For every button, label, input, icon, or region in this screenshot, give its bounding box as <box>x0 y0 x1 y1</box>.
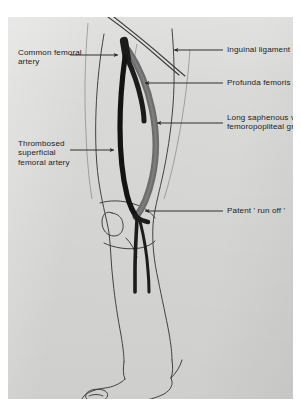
label-common-femoral-artery: Common femoral artery <box>18 48 82 67</box>
scan-plate: Common femoral artery Thrombosed superfi… <box>8 17 293 399</box>
thigh-contour-lines <box>85 23 190 199</box>
label-profunda-femoris-artery: Profunda femoris artery <box>227 78 293 87</box>
label-patent-run-off: Patent ' run off ' <box>227 206 285 215</box>
figure-root: Common femoral artery Thrombosed superfi… <box>0 0 301 413</box>
label-inguinal-ligament: Inguinal ligament <box>227 45 290 54</box>
leader-lines <box>70 50 223 211</box>
label-thrombosed-superficial-femoral-artery: Thrombosed superficial femoral artery <box>18 139 70 167</box>
label-long-saphenous-vein-graft: Long saphenous vein femoropopliteal graf… <box>227 113 293 132</box>
